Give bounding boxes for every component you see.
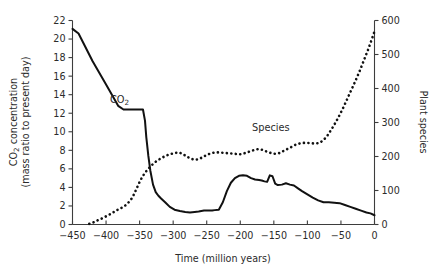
right-tick-label: 0 [382,219,388,230]
species-series-line [89,31,374,223]
bottom-tick-label: −150 [261,230,287,241]
species-series-label: Species [252,122,290,133]
right-axis-ticks: 0100200300400500600 [375,15,400,230]
chart-figure: 0246810121416182022 0100200300400500600 … [0,0,432,273]
bottom-tick-label: −100 [294,230,320,241]
right-tick-label: 300 [382,117,400,128]
bottom-tick-label: 0 [371,230,377,241]
right-tick-label: 200 [382,151,400,162]
bottom-tick-label: −400 [93,230,119,241]
left-axis-ticks: 0246810121416182022 [53,15,72,230]
right-tick-label: 500 [382,49,400,60]
co2-series-line [73,29,375,215]
left-tick-label: 12 [53,108,65,119]
left-tick-label: 8 [59,145,65,156]
left-axis-title-rest: concentration [8,78,19,148]
left-tick-label: 18 [53,52,65,63]
bottom-tick-label: −350 [126,230,152,241]
left-tick-label: 20 [53,33,65,44]
bottom-tick-label: −300 [160,230,186,241]
right-tick-label: 600 [382,15,400,26]
left-axis-title: CO2 concentration (mass ratio to present… [8,57,31,188]
left-tick-label: 16 [53,71,65,82]
co2-label-main: CO [110,94,125,105]
bottom-tick-label: −50 [331,230,351,241]
left-tick-label: 2 [59,200,65,211]
bottom-tick-label: −250 [194,230,220,241]
co2-series-label: CO2 [110,94,129,107]
bottom-tick-label: −200 [227,230,253,241]
bottom-tick-label: −450 [59,230,85,241]
left-tick-label: 0 [59,219,65,230]
chart-plot-area: 0246810121416182022 0100200300400500600 … [0,0,432,273]
left-tick-label: 6 [59,163,65,174]
right-tick-label: 400 [382,83,400,94]
left-axis-title-line2: (mass ratio to present day) [20,57,31,188]
right-axis-title: Plant species [418,90,429,153]
bottom-axis-ticks: −450−400−350−300−250−200−150−100−500 [59,221,377,241]
left-tick-label: 10 [53,126,65,137]
left-axis-title-co2: CO [8,151,19,166]
bottom-axis-title: Time (million years) [174,253,270,264]
left-tick-label: 14 [53,89,65,100]
left-tick-label: 4 [59,182,65,193]
svg-text:CO2: CO2 [110,94,129,107]
left-tick-label: 22 [53,15,65,26]
co2-label-sub: 2 [125,98,130,107]
right-tick-label: 100 [382,185,400,196]
